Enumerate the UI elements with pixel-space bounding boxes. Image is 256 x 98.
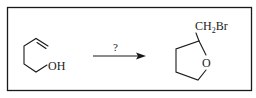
reactant-structure xyxy=(24,39,48,73)
reaction-diagram: OH ? O CH2Br xyxy=(0,0,256,98)
product-ch2-bond xyxy=(196,33,199,41)
reactant-carbon-chain xyxy=(24,39,48,73)
reactant-oh-label: OH xyxy=(48,59,66,73)
product-ch2br-label: CH2Br xyxy=(195,19,228,35)
product-ring-oxygen-label: O xyxy=(202,56,211,70)
reagent-label: ? xyxy=(113,41,118,53)
reaction-arrow xyxy=(93,53,146,60)
